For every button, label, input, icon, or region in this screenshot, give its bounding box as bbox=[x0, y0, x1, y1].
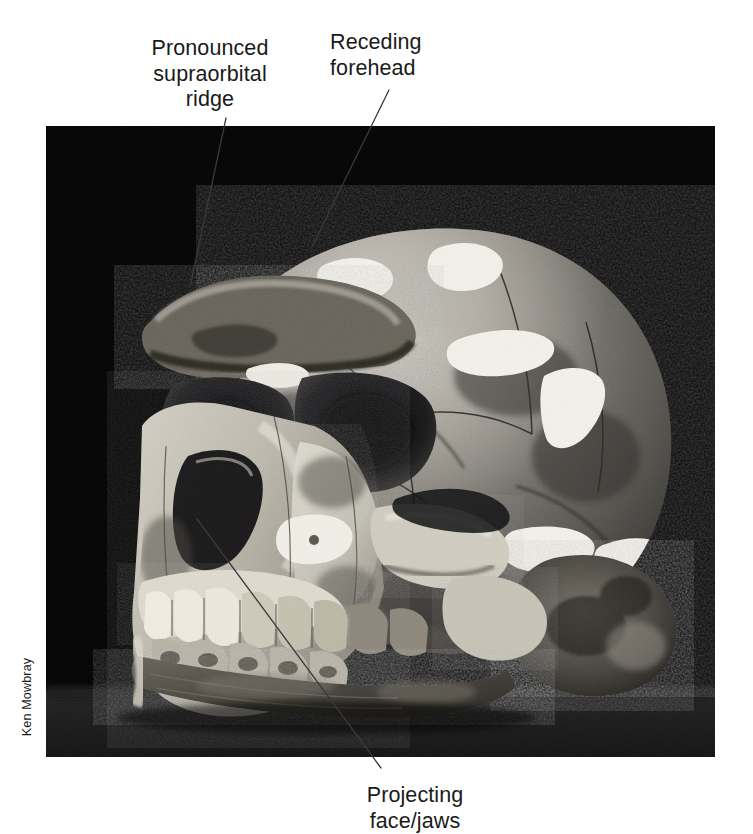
annotation-label-supraorbital: Pronounced supraorbital ridge bbox=[135, 36, 285, 113]
annotation-label-face-jaws: Projecting face/jaws bbox=[340, 783, 490, 834]
skull-photograph bbox=[46, 126, 715, 757]
photo-credit: Ken Mowbray bbox=[20, 637, 34, 757]
skull-photo-artwork bbox=[46, 126, 715, 757]
annotation-label-forehead: Receding forehead bbox=[330, 30, 480, 81]
